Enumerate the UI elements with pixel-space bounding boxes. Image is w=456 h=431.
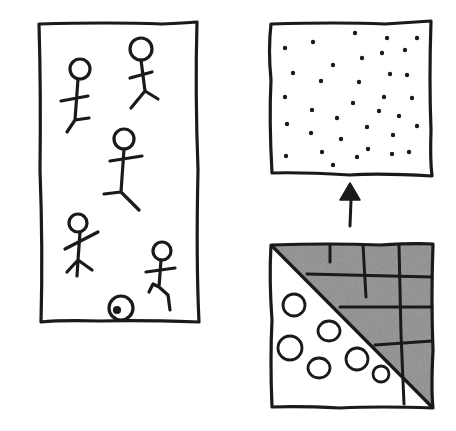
stick-figure-2 xyxy=(130,38,158,108)
dots-panel xyxy=(270,21,433,176)
arrow-up-icon xyxy=(340,183,360,226)
ball-icon xyxy=(109,296,133,320)
people-panel-frame xyxy=(39,22,199,322)
stick-figure-1 xyxy=(61,59,90,132)
stick-figure-5 xyxy=(146,242,175,310)
stick-figure-4 xyxy=(65,214,98,276)
people-panel xyxy=(39,22,199,322)
diagram-canvas xyxy=(0,0,456,431)
split-panel xyxy=(270,244,433,408)
stick-figure-3 xyxy=(104,129,142,210)
dots-pattern xyxy=(283,31,419,167)
